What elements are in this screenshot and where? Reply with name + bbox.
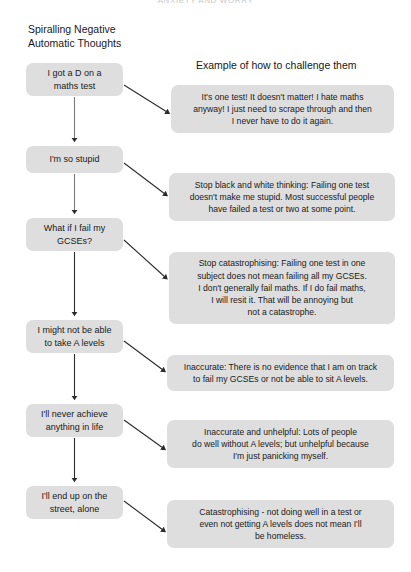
challenge-node[interactable]: Stop catastrophising: Failing one test i… bbox=[169, 252, 395, 324]
challenge-node[interactable]: Inaccurate: There is no evidence that I … bbox=[167, 355, 394, 391]
thought-node[interactable]: I'm so stupid bbox=[26, 146, 123, 173]
thought-node[interactable]: What if I fail my GCSEs? bbox=[26, 218, 123, 251]
challenge-node[interactable]: It's one test! It doesn't matter! I hate… bbox=[171, 85, 394, 133]
challenge-node[interactable]: Inaccurate and unhelpful: Lots of people… bbox=[167, 420, 394, 468]
diagonal-arrows bbox=[124, 85, 167, 530]
document-header-title: ANXIETY AND WORRY bbox=[0, 0, 411, 5]
thought-node[interactable]: I'll end up on the street, alone bbox=[26, 486, 123, 519]
thought-node[interactable]: I might not be able to take A levels bbox=[26, 320, 123, 353]
cbt-thought-spiral-diagram: ANXIETY AND WORRY Spiralling Negative Au… bbox=[0, 0, 411, 572]
column-heading-challenges: Example of how to challenge them bbox=[196, 59, 357, 73]
thought-node[interactable]: I got a D on a maths test bbox=[26, 63, 123, 96]
thought-node[interactable]: I'll never achieve anything in life bbox=[26, 404, 123, 437]
challenge-node[interactable]: Stop black and white thinking: Failing o… bbox=[169, 173, 395, 221]
column-heading-thoughts: Spiralling Negative Automatic Thoughts bbox=[28, 23, 121, 50]
challenge-node[interactable]: Catastrophising - not doing well in a te… bbox=[167, 500, 394, 548]
